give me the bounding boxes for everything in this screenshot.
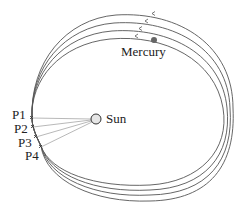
orbit-ellipse-1 xyxy=(32,38,224,185)
p1-label: P1 xyxy=(12,108,26,121)
radius-line-p1 xyxy=(32,118,91,119)
p4-label: P4 xyxy=(25,149,39,162)
p2-label: P2 xyxy=(14,122,28,135)
arrow-icon xyxy=(145,19,148,23)
mercury-precession-diagram: Sun Mercury P1 P2 P3 P4 xyxy=(0,0,243,214)
arrow-icon xyxy=(135,34,138,38)
arrow-icon xyxy=(139,27,142,31)
sun-label: Sun xyxy=(106,112,126,125)
mercury-label: Mercury xyxy=(121,45,166,58)
sun-icon xyxy=(91,114,101,124)
orbit-diagram xyxy=(0,0,243,214)
radius-line-p4 xyxy=(41,122,92,147)
mercury-icon xyxy=(151,37,157,43)
arrow-icon xyxy=(152,12,155,16)
